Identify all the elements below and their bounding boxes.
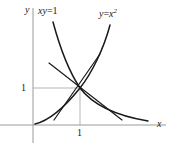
tangent-to-parabola: [54, 54, 100, 120]
curve-label-parabola: y=x2: [99, 8, 117, 19]
curve-label-hyperbola-lhs: xy: [38, 5, 47, 16]
y-axis-label: y: [25, 5, 29, 15]
curve-hyperbola: [53, 22, 148, 121]
x-tick-label-1: 1: [77, 128, 82, 138]
curve-label-hyperbola: xy=1: [38, 6, 58, 16]
plot-canvas: [0, 0, 170, 150]
curve-label-parabola-exponent: 2: [114, 7, 118, 15]
y-tick-label-1: 1: [21, 83, 26, 93]
x-axis-label: x: [157, 119, 161, 129]
curve-label-hyperbola-rhs: 1: [53, 5, 58, 16]
math-figure: y x xy=1 y=x2 1 1: [0, 0, 170, 150]
